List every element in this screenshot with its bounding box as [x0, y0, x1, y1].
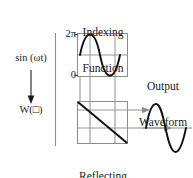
reflecting-title-line1: Reflecting — [70, 170, 136, 178]
indexing-title-line1: Indexing — [72, 26, 134, 38]
reflecting-function-plot — [78, 102, 128, 144]
signal-processing-diagram: Indexing Function 2π 0 Reflecting Functi… — [0, 0, 193, 178]
indexing-title-line2: Function — [72, 62, 134, 74]
reflecting-function-title: Reflecting Function — [70, 146, 136, 178]
down-arrow-head-icon — [28, 96, 35, 105]
output-waveform-title: Output Waveform — [133, 56, 193, 153]
input-arrow-group — [28, 70, 35, 104]
indexing-axis-top-label: 2π — [59, 28, 76, 39]
indexing-axis-bottom-label: 0 — [59, 69, 76, 80]
indexing-function-title: Indexing Function — [72, 2, 134, 99]
output-title-line2: Waveform — [133, 116, 193, 128]
reflecting-diagonal-line — [79, 103, 127, 143]
input-target-label: W(□) — [4, 104, 58, 115]
input-source-label: sin (ωt) — [4, 52, 58, 63]
output-title-line1: Output — [133, 80, 193, 92]
